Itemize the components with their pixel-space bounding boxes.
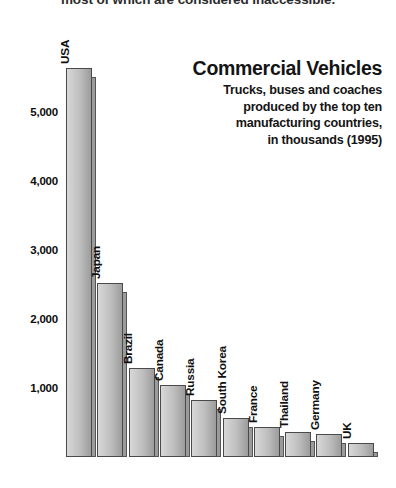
bar-category-label: South Korea	[215, 346, 229, 414]
bar-front-face	[97, 283, 123, 457]
bar-category-label: UK	[340, 423, 354, 440]
bar-category-label: Brazil	[121, 333, 135, 364]
bar-front-face	[285, 432, 311, 457]
chart-title: Commercial Vehicles	[164, 58, 382, 79]
chart-subtitle-line-4: in thousands (1995)	[164, 132, 382, 149]
bar-category-label: France	[246, 386, 260, 424]
bar-front-face	[348, 443, 374, 457]
chart-subtitle-line-1: Trucks, buses and coaches	[164, 82, 382, 99]
bar-front-face	[223, 418, 249, 457]
chart-title-block: Commercial Vehicles Trucks, buses and co…	[164, 58, 382, 148]
bar-category-label: USA	[58, 40, 72, 64]
bar-front-face	[129, 368, 155, 457]
bar-south-korea: South Korea	[223, 418, 249, 457]
bar-category-label: Thailand	[277, 381, 291, 428]
bar-russia: Russia	[191, 400, 217, 457]
bar-front-face	[160, 385, 186, 457]
chart-subtitle-line-3: manufacturing countries,	[164, 115, 382, 132]
bar-brazil: Brazil	[129, 368, 155, 457]
bar-front-face	[316, 434, 342, 457]
bar-canada: Canada	[160, 385, 186, 457]
bar-category-label: Japan	[89, 246, 103, 279]
bar-category-label: Russia	[183, 358, 197, 396]
bar-uk: UK	[348, 443, 374, 457]
bar-japan: Japan	[97, 283, 123, 457]
commercial-vehicles-bar-chart: 1,0002,0003,0004,0005,000 USAJapanBrazil…	[0, 0, 396, 488]
chart-subtitle-line-2: produced by the top ten	[164, 99, 382, 116]
bar-germany: Germany	[316, 434, 342, 457]
bar-thailand: Thailand	[285, 432, 311, 457]
bar-france: France	[254, 427, 280, 457]
bar-category-label: Canada	[152, 339, 166, 380]
chart-subtitle: Trucks, buses and coaches produced by th…	[164, 82, 382, 148]
bar-category-label: Germany	[308, 380, 322, 430]
bar-front-face	[254, 427, 280, 457]
bar-front-face	[191, 400, 217, 457]
